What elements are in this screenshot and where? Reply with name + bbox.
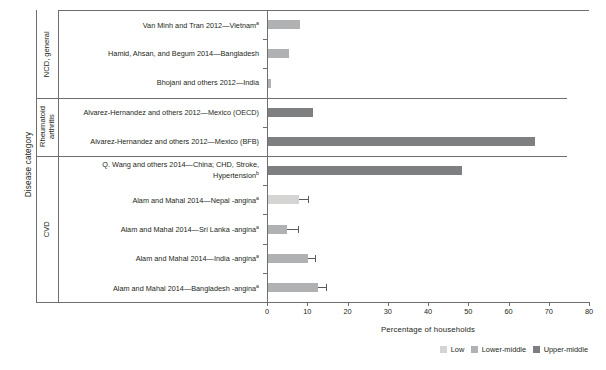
y-axis-title: Disease category xyxy=(24,85,33,245)
x-axis-tick-label: 10 xyxy=(295,307,319,316)
category-label: Alvarez-Hernandez and others 2012—Mexico… xyxy=(58,127,259,156)
x-axis-tick-label: 80 xyxy=(577,307,601,316)
bar xyxy=(267,195,299,204)
category-label: Alvarez-Hernandez and others 2012—Mexico… xyxy=(58,98,259,127)
x-axis-tick-label: 20 xyxy=(336,307,360,316)
legend-swatch xyxy=(471,346,478,353)
y-axis-tick xyxy=(263,39,267,40)
legend-item: Lower-middle xyxy=(471,345,526,354)
x-axis-tick xyxy=(589,302,590,306)
legend-swatch xyxy=(533,346,540,353)
x-axis-tick xyxy=(428,302,429,306)
group-label: NCD, general xyxy=(36,10,58,98)
y-axis-tick xyxy=(263,185,267,186)
x-axis-line xyxy=(36,302,589,303)
bar xyxy=(267,137,535,146)
legend-item: Low xyxy=(440,345,464,354)
y-axis-tick xyxy=(263,214,267,215)
bar xyxy=(267,225,287,234)
y-axis-tick xyxy=(263,156,267,157)
y-axis-tick xyxy=(263,244,267,245)
bar xyxy=(267,166,462,175)
x-axis-tick-label: 30 xyxy=(376,307,400,316)
legend-swatch xyxy=(440,346,447,353)
legend-label: Low xyxy=(451,345,465,354)
group-divider-vertical xyxy=(58,156,59,302)
legend-item: Upper-middle xyxy=(533,345,588,354)
group-outer-vertical xyxy=(36,98,37,156)
x-axis-tick-label: 40 xyxy=(416,307,440,316)
legend-label: Upper-middle xyxy=(544,345,588,354)
y-axis-tick xyxy=(263,273,267,274)
y-axis-tick xyxy=(263,127,267,128)
group-label: Rheumatoid arthritis xyxy=(36,98,58,156)
error-bar xyxy=(287,226,299,233)
group-separator xyxy=(36,156,567,157)
legend-label: Lower-middle xyxy=(482,345,526,354)
y-axis-tick xyxy=(263,98,267,99)
group-separator xyxy=(36,98,567,99)
x-axis-tick xyxy=(509,302,510,306)
x-axis-tick xyxy=(267,302,268,306)
category-label: Alam and Mahal 2014—Bangladesh -anginaa xyxy=(58,273,259,302)
error-bar xyxy=(299,196,309,203)
bar xyxy=(267,20,300,29)
bar xyxy=(267,108,313,117)
category-label: Alam and Mahal 2014—India -anginaa xyxy=(58,244,259,273)
group-divider-vertical xyxy=(58,10,59,98)
category-label: Van Minh and Tran 2012—Vietnama xyxy=(58,10,259,39)
group-outer-vertical xyxy=(36,156,37,302)
category-label: Hamid, Ahsan, and Begum 2014—Bangladesh xyxy=(58,39,259,68)
x-axis-tick xyxy=(307,302,308,306)
group-label: CVD xyxy=(36,156,58,302)
x-axis-tick xyxy=(468,302,469,306)
bar xyxy=(267,254,308,263)
group-divider-vertical xyxy=(58,98,59,156)
category-label: Bhojani and others 2012—India xyxy=(58,68,259,97)
x-axis-tick xyxy=(348,302,349,306)
plot-top-border xyxy=(58,10,589,11)
chart-figure: Disease category Percentage of household… xyxy=(0,0,606,370)
x-axis-tick xyxy=(549,302,550,306)
bar xyxy=(267,49,289,58)
x-axis-tick-label: 70 xyxy=(537,307,561,316)
x-axis-tick xyxy=(388,302,389,306)
bar xyxy=(267,283,318,292)
error-bar xyxy=(308,255,316,262)
category-label: Alam and Mahal 2014—Nepal -anginaa xyxy=(58,185,259,214)
group-outer-vertical xyxy=(36,10,37,98)
category-label: Alam and Mahal 2014—Sri Lanka -anginaa xyxy=(58,214,259,243)
x-axis-tick-label: 0 xyxy=(255,307,279,316)
category-label: Q. Wang and others 2014—China; CHD, Stro… xyxy=(58,156,259,185)
x-axis-title: Percentage of households xyxy=(267,325,589,334)
y-axis-tick xyxy=(263,68,267,69)
legend: LowLower-middleUpper-middle xyxy=(0,345,606,354)
error-bar xyxy=(318,284,328,291)
x-axis-tick-label: 50 xyxy=(456,307,480,316)
x-axis-tick-label: 60 xyxy=(497,307,521,316)
